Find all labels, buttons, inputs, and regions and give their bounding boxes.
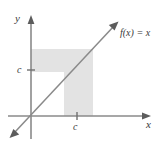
function-line — [10, 22, 119, 139]
shaded-vertical-band — [64, 49, 93, 116]
graph-canvas — [0, 0, 158, 144]
graph-figure: y x c c f(x) = x — [0, 0, 158, 144]
y-axis — [28, 15, 35, 139]
function-label: f(x) = x — [120, 28, 150, 38]
x-axis-label: x — [146, 119, 151, 130]
x-axis-tick-label-c: c — [73, 122, 77, 132]
y-axis-label: y — [15, 13, 20, 24]
y-axis-tick-label-c: c — [17, 65, 21, 75]
